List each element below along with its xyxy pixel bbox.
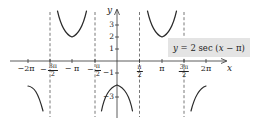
x-tick-3pi-2: 3π2 <box>179 63 189 78</box>
y-axis <box>115 9 120 118</box>
secant-graph <box>0 0 256 120</box>
legend-tail: − π) <box>223 43 244 53</box>
branch-upper-right <box>148 11 177 37</box>
function-label-box: y = 2 sec (x − π) <box>168 38 250 57</box>
legend-eq: = 2 sec ( <box>178 43 219 53</box>
y-tick-2: 2 <box>109 33 114 41</box>
x-tick-neg-2pi: −2π <box>17 65 34 73</box>
x-tick-neg-pi-2-sign: − <box>87 66 94 74</box>
x-tick-pi-2-den: 2 <box>137 72 141 79</box>
x-tick-pi: π <box>159 65 164 73</box>
y-tick-neg1: −1 <box>103 69 114 77</box>
x-axis-label: x <box>227 64 232 73</box>
x-tick-2pi: 2π <box>201 65 211 73</box>
y-axis-label: y <box>107 6 112 15</box>
x-tick-neg-3pi-2-den: 2 <box>51 71 55 78</box>
branch-upper-left <box>58 11 87 37</box>
x-tick-pi-2: π2 <box>136 63 142 78</box>
y-tick-1: 1 <box>109 45 114 53</box>
x-tick-neg-3pi-2: − 3π2 <box>40 63 58 77</box>
x-tick-neg-pi-2: − π2 <box>87 63 101 77</box>
x-tick-neg-3pi-2-sign: − <box>40 66 47 74</box>
x-tick-neg-pi: − π <box>65 65 80 73</box>
x-tick-3pi-2-den: 2 <box>182 72 186 79</box>
branch-lower-far-left <box>28 86 43 111</box>
y-tick-neg3: −3 <box>103 93 114 101</box>
x-tick-neg-pi-2-den: 2 <box>96 71 100 78</box>
branch-lower-far-right <box>191 86 206 111</box>
y-tick-3: 3 <box>109 21 114 29</box>
